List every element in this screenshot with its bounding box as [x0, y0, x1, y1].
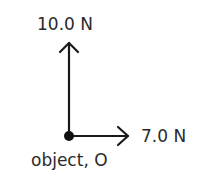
- object-point: [64, 131, 74, 141]
- rightward-force-arrow: [69, 127, 128, 145]
- rightward-force-label: 7.0 N: [141, 126, 186, 146]
- object-label: object, O: [31, 150, 108, 170]
- upward-force-label: 10.0 N: [37, 14, 93, 34]
- upward-force-arrow: [60, 43, 78, 136]
